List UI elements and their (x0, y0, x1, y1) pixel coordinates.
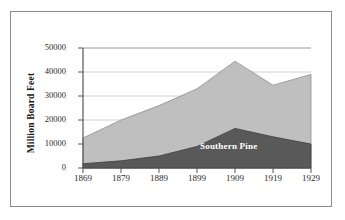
x-axis-ticks (83, 168, 311, 173)
chart-area: Million Board Feet 50000 40000 30000 200… (0, 0, 345, 220)
figure-container: Million Board Feet 50000 40000 30000 200… (0, 0, 345, 220)
series-annotation-southern-pine: Southern Pine (200, 141, 257, 151)
plot-svg (0, 0, 345, 220)
y-axis-ticks (78, 48, 83, 168)
